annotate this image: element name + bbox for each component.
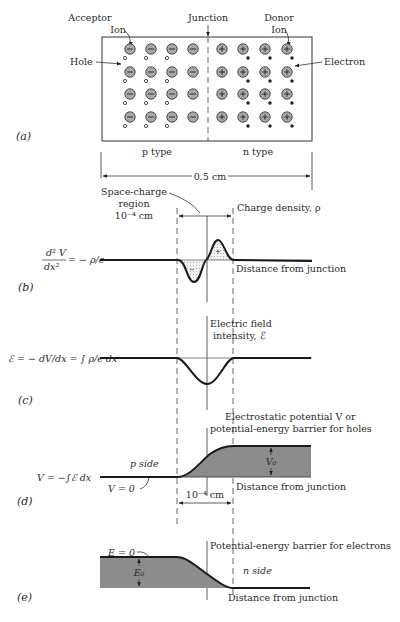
donor-ion <box>238 89 248 99</box>
donor-ion-label-2: Ion <box>271 24 287 35</box>
electron <box>290 124 293 127</box>
charge-density-label: Charge density, ρ <box>237 202 321 213</box>
space-charge-annotation: Space-charge region 10⁻⁴ cm <box>101 186 231 221</box>
electron-pointer-arrow <box>295 62 322 66</box>
acceptor-ion <box>146 67 156 77</box>
hole <box>144 56 147 59</box>
electron-label: Electron <box>324 56 365 67</box>
potential-label: Electrostatic potential V or <box>225 411 356 422</box>
donor-ion <box>217 112 227 122</box>
donor-ion-label: Donor <box>264 12 294 23</box>
v0-barrier-label: V₀ <box>266 456 277 467</box>
acceptor-ion <box>167 44 177 54</box>
electron <box>290 79 293 82</box>
electron <box>268 124 271 127</box>
electron <box>290 101 293 104</box>
electron <box>246 79 249 82</box>
electron <box>290 56 293 59</box>
distance-axis-label-e: Distance from junction <box>228 592 338 603</box>
d-width-label: 10⁻⁴ cm <box>186 489 224 500</box>
acceptor-ion <box>146 44 156 54</box>
panel-d-potential: Electrostatic potential V or potential-e… <box>17 411 372 508</box>
electron <box>268 79 271 82</box>
acceptor-ion <box>146 112 156 122</box>
donor-ion <box>260 89 270 99</box>
donor-ion <box>282 112 292 122</box>
electron <box>246 56 249 59</box>
panel-b-label: (b) <box>18 281 34 294</box>
acceptor-ion <box>188 89 198 99</box>
n-type-label: n type <box>243 146 273 157</box>
potential-label-2: potential-energy barrier for holes <box>210 423 372 434</box>
acceptor-ion-label: Acceptor <box>67 12 112 23</box>
equation-b-numerator: d² V <box>46 247 67 258</box>
e-zero-label: E = 0 <box>107 547 135 558</box>
electric-field-curve <box>100 358 311 384</box>
donor-ion <box>282 44 292 54</box>
donor-ion <box>260 44 270 54</box>
electron <box>268 56 271 59</box>
donor-ion <box>260 112 270 122</box>
electric-field-label-2: intensity, ℰ <box>213 330 266 341</box>
donor-ion <box>282 89 292 99</box>
acceptor-ion <box>125 112 135 122</box>
acceptor-ion <box>188 44 198 54</box>
charge-density-curve <box>100 240 312 282</box>
equation-b-rhs: = − ρ/ϵ <box>68 254 105 265</box>
distance-axis-label-d: Distance from junction <box>236 481 346 492</box>
equation-b-denominator: dx² <box>44 261 59 272</box>
hole <box>144 101 147 104</box>
hole <box>123 101 126 104</box>
panel-a-crystal: Acceptor Ion Junction Donor Ion Hole Ele… <box>16 12 365 190</box>
equation-d: V = −∫ℰ dx <box>37 472 92 483</box>
donor-ion <box>217 67 227 77</box>
panel-e-electron-barrier: Potential-energy barrier for electrons E… <box>17 540 391 604</box>
electron-barrier-area <box>100 557 233 588</box>
p-side-label: p side <box>130 458 159 469</box>
space-charge-label: Space-charge <box>101 186 167 197</box>
space-charge-label-2: region <box>118 198 149 209</box>
hole <box>165 79 168 82</box>
hole <box>165 56 168 59</box>
panel-c-electric-field: Electric field intensity, ℰ ℰ = − dV/dx … <box>8 318 312 407</box>
electron <box>268 101 271 104</box>
hole <box>144 79 147 82</box>
panel-d-label: (d) <box>17 495 33 508</box>
hole <box>123 124 126 127</box>
hole-label: Hole <box>70 56 93 67</box>
e0-barrier-label: E₀ <box>133 567 145 578</box>
hole-barrier-area <box>177 446 311 477</box>
acceptor-ion <box>125 89 135 99</box>
hole <box>165 124 168 127</box>
acceptor-ion <box>188 67 198 77</box>
acceptor-ion <box>167 67 177 77</box>
donor-ion <box>282 67 292 77</box>
acceptor-ion <box>125 67 135 77</box>
panel-e-label: (e) <box>17 591 32 604</box>
v-zero-pointer <box>140 478 149 489</box>
donor-ion <box>238 112 248 122</box>
electron <box>246 101 249 104</box>
positive-charge-sign: + <box>215 248 221 256</box>
space-charge-width-label: 10⁻⁴ cm <box>115 210 153 221</box>
pn-junction-figure: Acceptor Ion Junction Donor Ion Hole Ele… <box>0 0 400 622</box>
distance-axis-label-b: Distance from junction <box>236 263 346 274</box>
acceptor-ion <box>167 89 177 99</box>
donor-ion <box>260 67 270 77</box>
negative-charge-sign: − <box>189 266 195 274</box>
panel-c-label: (c) <box>18 394 33 407</box>
v-zero-label: V = 0 <box>108 483 135 494</box>
acceptor-ion <box>188 112 198 122</box>
electron-barrier-label: Potential-energy barrier for electrons <box>210 540 391 551</box>
electric-field-label: Electric field <box>210 318 272 329</box>
hole <box>123 56 126 59</box>
junction-label: Junction <box>187 12 228 23</box>
electron <box>246 124 249 127</box>
acceptor-ion <box>167 112 177 122</box>
donor-ion <box>238 44 248 54</box>
acceptor-ion <box>125 44 135 54</box>
space-charge-pointer <box>169 193 200 213</box>
acceptor-ion-label-2: Ion <box>110 24 126 35</box>
width-label: 0.5 cm <box>194 171 226 182</box>
p-type-label: p type <box>142 146 172 157</box>
